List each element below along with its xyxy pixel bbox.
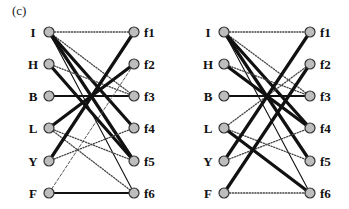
node-label-f6: f6 bbox=[320, 186, 331, 201]
edge-I-f3 bbox=[49, 32, 134, 96]
node-f6 bbox=[129, 188, 139, 198]
node-F bbox=[44, 188, 54, 198]
node-label-f1: f1 bbox=[320, 25, 331, 40]
node-label-F: F bbox=[29, 186, 37, 201]
node-label-I: I bbox=[30, 25, 35, 40]
node-F bbox=[219, 188, 229, 198]
node-label-f3: f3 bbox=[320, 89, 331, 104]
node-label-F: F bbox=[204, 186, 212, 201]
node-label-f1: f1 bbox=[144, 25, 155, 40]
edge-L-f6 bbox=[224, 128, 310, 193]
graph-right: IHBLYFf1f2f3f4f5f6 bbox=[203, 25, 331, 201]
node-f3 bbox=[129, 91, 139, 101]
node-label-H: H bbox=[203, 57, 213, 72]
node-label-f6: f6 bbox=[144, 186, 155, 201]
edge-I-f3 bbox=[224, 32, 310, 96]
node-H bbox=[219, 59, 229, 69]
node-label-f2: f2 bbox=[320, 57, 331, 72]
node-f2 bbox=[305, 59, 315, 69]
node-label-f3: f3 bbox=[144, 89, 155, 104]
node-label-f5: f5 bbox=[320, 154, 331, 169]
bipartite-diagram: IHBLYFf1f2f3f4f5f6IHBLYFf1f2f3f4f5f6 bbox=[0, 0, 349, 209]
node-label-f4: f4 bbox=[320, 121, 331, 136]
node-label-f5: f5 bbox=[144, 154, 155, 169]
node-B bbox=[219, 91, 229, 101]
edge-H-f3 bbox=[224, 64, 310, 96]
node-label-L: L bbox=[29, 121, 38, 136]
node-f5 bbox=[129, 156, 139, 166]
node-Y bbox=[44, 156, 54, 166]
edge-F-f2 bbox=[49, 64, 134, 193]
node-f6 bbox=[305, 188, 315, 198]
node-label-f4: f4 bbox=[144, 121, 155, 136]
node-f5 bbox=[305, 156, 315, 166]
node-f4 bbox=[305, 123, 315, 133]
node-f1 bbox=[129, 27, 139, 37]
node-label-B: B bbox=[204, 89, 213, 104]
node-f1 bbox=[305, 27, 315, 37]
node-I bbox=[219, 27, 229, 37]
node-f4 bbox=[129, 123, 139, 133]
node-label-B: B bbox=[29, 89, 38, 104]
edge-L-f6 bbox=[49, 128, 134, 193]
edges bbox=[224, 32, 310, 193]
node-f2 bbox=[129, 59, 139, 69]
node-L bbox=[219, 123, 229, 133]
node-B bbox=[44, 91, 54, 101]
node-f3 bbox=[305, 91, 315, 101]
node-Y bbox=[219, 156, 229, 166]
node-label-f2: f2 bbox=[144, 57, 155, 72]
node-H bbox=[44, 59, 54, 69]
node-label-L: L bbox=[204, 121, 213, 136]
node-I bbox=[44, 27, 54, 37]
node-L bbox=[44, 123, 54, 133]
node-label-Y: Y bbox=[203, 154, 213, 169]
edge-F-f2 bbox=[224, 64, 310, 193]
node-label-H: H bbox=[28, 57, 38, 72]
edges bbox=[49, 32, 134, 193]
node-label-Y: Y bbox=[28, 154, 38, 169]
graph-left: IHBLYFf1f2f3f4f5f6 bbox=[28, 25, 155, 201]
node-label-I: I bbox=[205, 25, 210, 40]
